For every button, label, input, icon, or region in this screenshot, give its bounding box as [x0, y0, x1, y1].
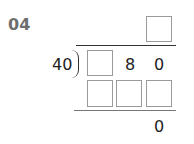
remainder: 0 — [154, 119, 164, 135]
subtraction-line — [74, 110, 176, 111]
dividend-box-hundreds[interactable] — [87, 50, 113, 76]
quotient-box[interactable] — [146, 16, 172, 42]
division-overline — [76, 45, 176, 46]
product-box-1[interactable] — [87, 80, 113, 107]
product-box-3[interactable] — [146, 80, 172, 107]
divisor: 40 — [52, 57, 72, 73]
product-box-2[interactable] — [116, 80, 142, 107]
dividend-digit-ones: 0 — [154, 57, 164, 73]
problem-number: 04 — [8, 15, 30, 34]
dividend-digit-tens: 8 — [125, 57, 135, 73]
division-bracket — [71, 50, 79, 78]
